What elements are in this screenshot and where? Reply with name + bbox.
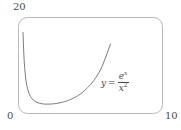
equation-numerator: ex xyxy=(118,72,129,81)
plot-area xyxy=(0,0,181,130)
figure-container: 20 0 10 y=exx2 xyxy=(0,0,181,130)
equation-lhs: y xyxy=(101,78,106,88)
equation-annotation: y=exx2 xyxy=(101,73,129,94)
equation-denominator-exponent: 2 xyxy=(124,81,128,88)
plot-frame xyxy=(19,18,163,114)
curve-y-equals-exp-x-over-x-squared xyxy=(23,32,111,104)
equation-equals-sign: = xyxy=(108,78,116,88)
equation-fraction: exx2 xyxy=(118,72,129,93)
equation-denominator: x2 xyxy=(118,84,129,93)
equation-numerator-exponent: x xyxy=(124,69,127,76)
